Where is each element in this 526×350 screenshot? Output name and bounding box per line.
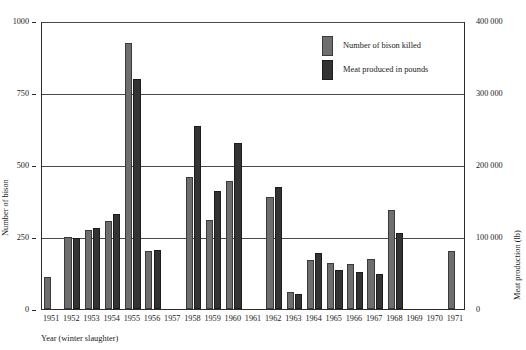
bar-1958-meat-produced <box>194 126 201 309</box>
x-tick-1964: 1964 <box>305 314 321 323</box>
left-tickmark-250 <box>32 238 36 239</box>
x-tick-1956: 1956 <box>144 314 160 323</box>
bar-1954-meat-produced <box>113 214 120 309</box>
bar-1960-meat-produced <box>234 143 241 309</box>
left-tickmark-1000 <box>32 22 36 23</box>
bar-1955-bison-killed <box>125 43 132 309</box>
right-tick-400000: 400 000 <box>469 18 526 26</box>
x-tick-1957: 1957 <box>164 314 180 323</box>
x-tick-1960: 1960 <box>225 314 241 323</box>
x-tick-1965: 1965 <box>326 314 342 323</box>
left-axis-tick-labels: 02505007501000 <box>0 0 36 350</box>
bar-1955-meat-produced <box>133 79 140 309</box>
bar-1953-meat-produced <box>93 228 100 309</box>
left-tickmark-750 <box>32 94 36 95</box>
bar-1966-bison-killed <box>347 264 354 309</box>
left-tick-0: 0 <box>0 306 36 314</box>
x-tick-1953: 1953 <box>83 314 99 323</box>
bar-1958-bison-killed <box>186 177 193 309</box>
bar-1967-bison-killed <box>367 259 374 309</box>
bar-1963-meat-produced <box>295 294 302 309</box>
right-axis-title: Meat production (lb) <box>513 230 522 300</box>
bar-1965-bison-killed <box>327 263 334 309</box>
bar-1956-bison-killed <box>145 251 152 309</box>
left-tickmark-500 <box>32 166 36 167</box>
bar-1960-bison-killed <box>226 181 233 309</box>
bison-slaughter-chart: 02505007501000 0100 000200 000300 000400… <box>0 0 526 350</box>
x-tick-1968: 1968 <box>386 314 402 323</box>
bar-1953-bison-killed <box>85 230 92 309</box>
x-tick-1958: 1958 <box>184 314 200 323</box>
bar-1962-bison-killed <box>266 197 273 309</box>
right-tick-300000: 300 000 <box>469 90 526 98</box>
bar-1959-bison-killed <box>206 220 213 309</box>
bar-1964-bison-killed <box>307 260 314 309</box>
bar-1965-meat-produced <box>335 270 342 309</box>
bar-1971-bison-killed <box>448 251 455 309</box>
bar-1968-bison-killed <box>388 210 395 309</box>
left-tick-500: 500 <box>0 162 36 170</box>
left-tick-750: 750 <box>0 90 36 98</box>
right-tick-0: 0 <box>469 306 526 314</box>
bar-1966-meat-produced <box>356 272 363 309</box>
bar-1959-meat-produced <box>214 191 221 309</box>
legend-swatch-light <box>322 36 333 56</box>
bar-1967-meat-produced <box>376 274 383 309</box>
bar-1968-meat-produced <box>396 233 403 309</box>
x-axis-tick-labels: 1951195219531954195519561957195819591960… <box>41 314 465 328</box>
x-tick-1963: 1963 <box>285 314 301 323</box>
legend-label: Number of bison killed <box>343 41 421 50</box>
x-tick-1959: 1959 <box>204 314 220 323</box>
bar-1964-meat-produced <box>315 253 322 309</box>
legend-label: Meat produced in pounds <box>343 65 428 74</box>
left-tick-1000: 1000 <box>0 18 36 26</box>
chart-legend: Number of bison killedMeat produced in p… <box>322 36 512 82</box>
legend-swatch-dark <box>322 60 333 80</box>
x-tick-1952: 1952 <box>63 314 79 323</box>
right-tick-200000: 200 000 <box>469 162 526 170</box>
left-axis-title: Number of bison <box>1 179 10 236</box>
x-tick-1954: 1954 <box>103 314 119 323</box>
x-tick-1967: 1967 <box>366 314 382 323</box>
x-tick-1971: 1971 <box>447 314 463 323</box>
bar-1956-meat-produced <box>154 250 161 309</box>
bar-1952-meat-produced <box>73 238 80 309</box>
x-tick-1955: 1955 <box>124 314 140 323</box>
x-axis-title: Year (winter slaughter) <box>41 334 118 343</box>
x-tick-1961: 1961 <box>245 314 261 323</box>
bar-1954-bison-killed <box>105 221 112 309</box>
left-tickmark-0 <box>32 310 36 311</box>
x-tick-1970: 1970 <box>427 314 443 323</box>
bar-1963-bison-killed <box>287 292 294 309</box>
x-tick-1969: 1969 <box>406 314 422 323</box>
x-tick-1962: 1962 <box>265 314 281 323</box>
x-tick-1966: 1966 <box>346 314 362 323</box>
bar-1951-bison-killed <box>44 277 51 309</box>
x-tick-1951: 1951 <box>43 314 59 323</box>
bar-1952-bison-killed <box>64 237 71 309</box>
bar-1962-meat-produced <box>275 187 282 309</box>
